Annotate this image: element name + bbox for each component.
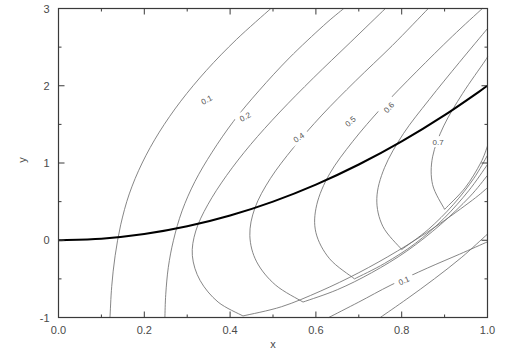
contour-line bbox=[355, 165, 488, 279]
x-tick-label: 0.0 bbox=[51, 324, 66, 336]
contour-line bbox=[402, 155, 488, 249]
contour-level-label: 0.7 bbox=[433, 138, 445, 147]
y-axis-tick-labels: -10123 bbox=[40, 3, 50, 324]
x-axis-tick-labels: 0.00.20.40.60.81.0 bbox=[51, 324, 495, 336]
x-tick-label: 0.8 bbox=[394, 324, 409, 336]
plot-frame bbox=[59, 9, 488, 318]
x-tick-label: 0.2 bbox=[137, 324, 152, 336]
contour-line bbox=[250, 9, 428, 303]
y-tick-label: -1 bbox=[40, 312, 50, 324]
y-tick-label: 3 bbox=[43, 3, 49, 15]
contour-line bbox=[380, 234, 487, 317]
contour-lines-group bbox=[110, 9, 488, 318]
contour-plot-figure: 0.00.20.40.60.81.0 -10123 0.10.20.40.50.… bbox=[0, 0, 508, 357]
y-tick-label: 1 bbox=[43, 157, 49, 169]
x-tick-label: 0.6 bbox=[308, 324, 323, 336]
y-tick-label: 0 bbox=[43, 234, 49, 246]
x-axis-ticks bbox=[59, 9, 488, 318]
x-tick-label: 0.4 bbox=[222, 324, 237, 336]
y-axis-title: y bbox=[16, 157, 28, 163]
y-tick-label: 2 bbox=[43, 80, 49, 92]
y-axis-ticks bbox=[59, 9, 488, 318]
contour-line bbox=[445, 146, 488, 209]
contour-line bbox=[110, 9, 271, 318]
x-axis-title: x bbox=[270, 338, 276, 350]
plot-canvas: 0.00.20.40.60.81.0 -10123 0.10.20.40.50.… bbox=[0, 0, 508, 357]
contour-line bbox=[165, 9, 344, 318]
x-tick-label: 1.0 bbox=[480, 324, 495, 336]
